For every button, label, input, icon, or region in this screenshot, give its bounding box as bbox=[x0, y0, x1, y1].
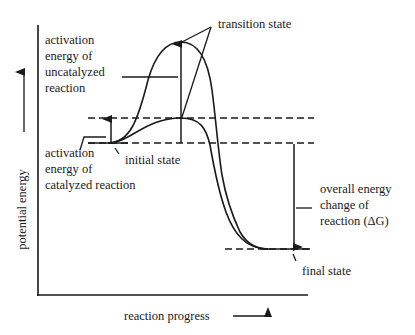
final-state-leader bbox=[293, 254, 296, 261]
label-line: reaction bbox=[45, 80, 105, 96]
label-line: overall energy bbox=[320, 181, 392, 197]
initial-state-label: initial state bbox=[125, 152, 180, 168]
label-line: catalyzed reaction bbox=[45, 177, 136, 193]
uncatalyzed-activation-label: activation energy of uncatalyzed reactio… bbox=[45, 32, 105, 96]
label-line: reaction (ΔG) bbox=[320, 213, 392, 229]
y-axis-label: potential energy bbox=[15, 155, 30, 265]
transition-state-leader-2 bbox=[182, 27, 211, 117]
label-line: energy of bbox=[45, 48, 105, 64]
label-line: change of bbox=[320, 197, 392, 213]
overall-change-label: overall energy change of reaction (ΔG) bbox=[320, 181, 392, 229]
label-line: activation bbox=[45, 32, 105, 48]
label-line: activation bbox=[45, 145, 136, 161]
x-axis-label: reaction progress bbox=[124, 308, 210, 324]
transition-state-label: transition state bbox=[218, 16, 291, 32]
final-state-label: final state bbox=[302, 263, 351, 279]
catalyzed-activation-label: activation energy of catalyzed reaction bbox=[45, 145, 136, 193]
label-line: uncatalyzed bbox=[45, 64, 105, 80]
label-line: energy of bbox=[45, 161, 136, 177]
